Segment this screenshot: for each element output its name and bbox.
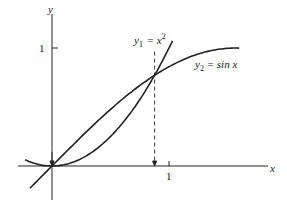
x-axis-label: x	[269, 162, 275, 174]
y-axis-label: y	[47, 3, 53, 15]
x-tick-1: 1	[166, 170, 172, 182]
series-label-x2: y1 = x2	[133, 32, 166, 49]
series-curve-0	[25, 41, 172, 166]
chart: y x 1 1 y1 = x2 y2 = sin x	[0, 0, 287, 208]
arrow-head-icon	[153, 161, 157, 166]
y-tick-1: 1	[39, 42, 45, 54]
series-label-sin: y2 = sin x	[194, 58, 237, 73]
